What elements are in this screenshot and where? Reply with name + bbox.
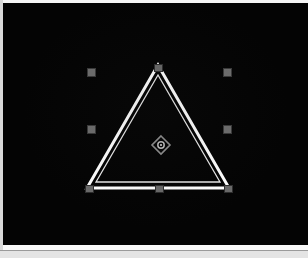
handle-apex[interactable] [154, 64, 163, 72]
grip-top-right[interactable] [223, 68, 232, 77]
handle-bottom-right[interactable] [224, 185, 233, 193]
grip-bottom-right[interactable] [223, 125, 232, 134]
handle-bottom-left[interactable] [85, 185, 94, 193]
triangle-shape-layer [3, 3, 308, 245]
app-root: 3D Viewport Object Select Triangle [0, 0, 308, 258]
grip-bottom-left[interactable] [87, 125, 96, 134]
triangle-inner-stroke [96, 75, 220, 182]
grip-top-left[interactable] [87, 68, 96, 77]
viewport-canvas[interactable]: 3D Viewport Object Select Triangle [3, 3, 308, 245]
pivot-marker[interactable] [150, 134, 172, 156]
frame-bevel-bottom [0, 251, 308, 258]
triangle-outer-stroke[interactable] [87, 65, 229, 188]
pivot-diamond-icon [150, 134, 172, 156]
scene-stage [3, 3, 308, 245]
handle-bottom-middle[interactable] [155, 185, 164, 193]
